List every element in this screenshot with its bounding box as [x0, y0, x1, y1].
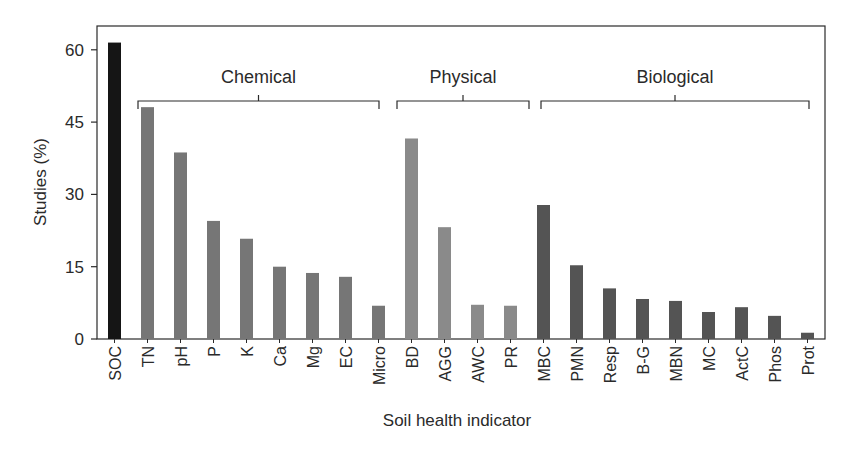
x-tick-label: Micro [371, 346, 388, 385]
bar-mg [306, 273, 319, 339]
bar-ph [174, 152, 187, 339]
bar-chart: 015304560 SOCTNpHPKCaMgECMicroBDAGGAWCPR… [0, 0, 854, 451]
x-tick-label: P [206, 346, 223, 357]
bar-soc [108, 43, 121, 339]
y-axis: 015304560 [65, 41, 97, 349]
bar-mc [702, 312, 715, 339]
bar-pr [504, 306, 517, 339]
bar-resp [603, 288, 616, 339]
bracket-biological [541, 95, 809, 109]
y-tick-label: 30 [65, 185, 84, 204]
bar-awc [471, 305, 484, 339]
bar-phos [768, 316, 781, 339]
bar-tn [141, 107, 154, 339]
bar-b-g [636, 299, 649, 339]
bars-group [108, 43, 814, 339]
x-tick-label: MC [701, 346, 718, 371]
bar-bd [405, 138, 418, 339]
x-axis: SOCTNpHPKCaMgECMicroBDAGGAWCPRMBCPMNResp… [107, 339, 817, 385]
x-tick-label: Resp [602, 346, 619, 383]
x-tick-label: MBN [668, 346, 685, 382]
group-label-biological: Biological [636, 67, 713, 87]
bar-agg [438, 227, 451, 339]
x-tick-label: ActC [734, 346, 751, 381]
bracket-chemical [138, 95, 379, 109]
y-tick-label: 0 [75, 330, 84, 349]
group-label-chemical: Chemical [221, 67, 296, 87]
y-tick-label: 15 [65, 258, 84, 277]
bar-ca [273, 267, 286, 339]
x-tick-label: K [239, 346, 256, 357]
x-tick-label: PMN [569, 346, 586, 382]
bar-ec [339, 277, 352, 339]
x-tick-label: AGG [437, 346, 454, 382]
x-tick-label: EC [338, 346, 355, 368]
x-tick-label: Phos [767, 346, 784, 382]
group-label-physical: Physical [429, 67, 496, 87]
y-tick-label: 45 [65, 113, 84, 132]
y-axis-title: Studies (%) [31, 138, 50, 226]
bracket-physical [397, 95, 529, 109]
bar-micro [372, 306, 385, 339]
x-axis-title: Soil health indicator [383, 411, 532, 430]
bar-mbn [669, 301, 682, 339]
chart-canvas: 015304560 SOCTNpHPKCaMgECMicroBDAGGAWCPR… [0, 0, 854, 451]
x-tick-label: Prot [800, 345, 817, 375]
bar-mbc [537, 205, 550, 339]
x-tick-label: MBC [536, 346, 553, 382]
x-tick-label: BD [404, 346, 421, 368]
x-tick-label: TN [140, 346, 157, 367]
group-brackets: ChemicalPhysicalBiological [138, 67, 809, 109]
bar-pmn [570, 265, 583, 339]
x-tick-label: Ca [272, 346, 289, 367]
y-tick-label: 60 [65, 41, 84, 60]
x-tick-label: SOC [107, 346, 124, 381]
bar-k [240, 239, 253, 339]
x-tick-label: Mg [305, 346, 322, 368]
x-tick-label: pH [173, 346, 190, 366]
bar-actc [735, 307, 748, 339]
bar-prot [801, 333, 814, 339]
x-tick-label: AWC [470, 346, 487, 383]
x-tick-label: B-G [635, 346, 652, 374]
x-tick-label: PR [503, 346, 520, 368]
bar-p [207, 221, 220, 339]
